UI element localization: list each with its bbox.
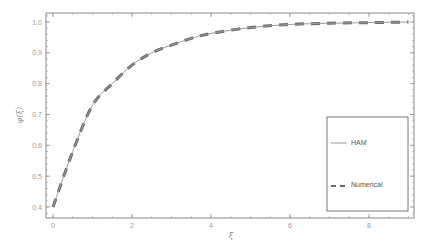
y-tick-label: 0.5 — [32, 173, 42, 180]
legend: HAM Numerical — [327, 117, 408, 211]
y-tick-label: 0.4 — [32, 204, 42, 211]
y-tick-label: 1.0 — [32, 19, 42, 26]
legend-numerical-label: Numerical — [351, 181, 383, 188]
legend-box — [327, 117, 408, 211]
y-tick-label: 0.8 — [32, 80, 42, 87]
y-tick-label: 0.7 — [32, 111, 42, 118]
y-axis-label: φ(ξ) — [15, 107, 24, 123]
x-axis-label: ξ — [229, 231, 234, 240]
y-tick-label: 0.6 — [32, 142, 42, 149]
x-tick-label: 2 — [130, 222, 134, 229]
x-tick-label: 6 — [288, 222, 292, 229]
x-tick-label: 0 — [51, 222, 55, 229]
x-tick-label: 4 — [209, 222, 213, 229]
line-chart: 024680.40.50.60.70.80.91.0 ξ φ(ξ) HAM Nu… — [0, 0, 434, 246]
x-tick-label: 8 — [367, 222, 371, 229]
legend-ham-label: HAM — [351, 139, 367, 146]
y-tick-label: 0.9 — [32, 49, 42, 56]
